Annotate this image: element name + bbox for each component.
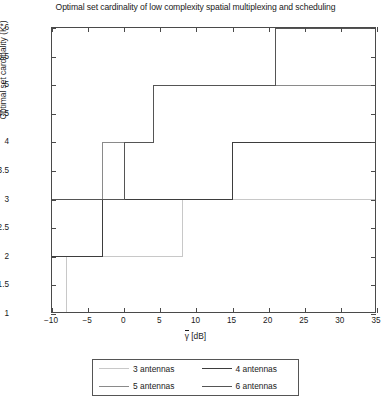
legend-item[interactable]: 5 antennas xyxy=(93,378,196,396)
x-tick-top xyxy=(341,27,342,32)
plot-area xyxy=(51,27,376,313)
x-axis-unit: [dB] xyxy=(189,331,206,341)
x-tick-label: 10 xyxy=(191,316,200,325)
y-tick xyxy=(51,57,56,58)
x-axis-symbol: γ xyxy=(185,331,189,341)
y-tick-label: 2.5 xyxy=(0,223,9,232)
y-tick-right xyxy=(371,285,376,286)
chart-title: Optimal set cardinality of low complexit… xyxy=(0,2,391,12)
x-tick xyxy=(269,308,270,313)
legend-item[interactable]: 4 antennas xyxy=(196,360,299,378)
x-tick xyxy=(341,308,342,313)
x-tick-label: −10 xyxy=(44,316,58,325)
x-tick xyxy=(160,308,161,313)
y-tick xyxy=(51,142,56,143)
legend-line-swatch xyxy=(99,368,129,369)
legend-line-swatch xyxy=(202,386,232,387)
y-tick xyxy=(51,228,56,229)
x-tick xyxy=(124,308,125,313)
x-tick-top xyxy=(160,27,161,32)
x-tick-label: 20 xyxy=(263,316,272,325)
y-tick-right xyxy=(371,314,376,315)
x-tick-top xyxy=(88,27,89,32)
legend-item-label: 4 antennas xyxy=(236,364,277,374)
y-tick-right xyxy=(371,142,376,143)
legend-item-label: 3 antennas xyxy=(133,364,174,374)
x-tick-label: 25 xyxy=(299,316,308,325)
x-tick-label: 15 xyxy=(227,316,236,325)
legend-box: 3 antennas4 antennas5 antennas6 antennas xyxy=(92,359,299,396)
series-line xyxy=(52,28,375,200)
x-tick-label: 5 xyxy=(157,316,162,325)
legend-item-label: 5 antennas xyxy=(133,381,174,391)
x-tick-top xyxy=(196,27,197,32)
y-tick-right xyxy=(371,85,376,86)
x-tick-label: 30 xyxy=(335,316,344,325)
x-tick-label: 35 xyxy=(371,316,380,325)
y-tick-label: 3 xyxy=(4,194,9,203)
y-tick-right xyxy=(371,257,376,258)
x-tick-top xyxy=(305,27,306,32)
legend-item[interactable]: 6 antennas xyxy=(196,378,299,396)
y-tick-label: 1 xyxy=(4,309,9,318)
x-tick-label: −5 xyxy=(82,316,91,325)
x-tick-top xyxy=(269,27,270,32)
x-tick-top xyxy=(52,27,53,32)
y-tick-right xyxy=(371,57,376,58)
x-tick xyxy=(377,308,378,313)
y-tick xyxy=(51,114,56,115)
x-tick-label: 0 xyxy=(121,316,126,325)
x-axis-title: γ [dB] xyxy=(0,331,391,341)
x-tick xyxy=(88,308,89,313)
y-tick-right xyxy=(371,228,376,229)
y-tick-right xyxy=(371,28,376,29)
y-tick-label: 2 xyxy=(4,251,9,260)
legend-item[interactable]: 3 antennas xyxy=(93,360,196,378)
y-tick xyxy=(51,171,56,172)
chart-figure: Optimal set cardinality of low complexit… xyxy=(0,0,391,403)
x-tick-top xyxy=(377,27,378,32)
y-tick-right xyxy=(371,200,376,201)
x-tick xyxy=(233,308,234,313)
x-tick-top xyxy=(233,27,234,32)
y-axis-title: Optimal set cardinality (K*) xyxy=(0,0,8,170)
y-tick xyxy=(51,314,56,315)
y-tick xyxy=(51,85,56,86)
legend-item-label: 6 antennas xyxy=(236,381,277,391)
legend-line-swatch xyxy=(202,368,232,369)
y-tick xyxy=(51,257,56,258)
x-tick-top xyxy=(124,27,125,32)
legend-line-swatch xyxy=(99,386,129,387)
y-tick-right xyxy=(371,171,376,172)
series-line xyxy=(52,200,375,312)
x-tick xyxy=(52,308,53,313)
x-tick xyxy=(305,308,306,313)
y-tick xyxy=(51,200,56,201)
series-lines xyxy=(52,28,375,312)
y-tick xyxy=(51,285,56,286)
plot-canvas xyxy=(52,28,375,312)
y-tick-right xyxy=(371,114,376,115)
y-tick-label: 1.5 xyxy=(0,280,9,289)
x-tick xyxy=(196,308,197,313)
legend-grid: 3 antennas4 antennas5 antennas6 antennas xyxy=(93,360,298,395)
